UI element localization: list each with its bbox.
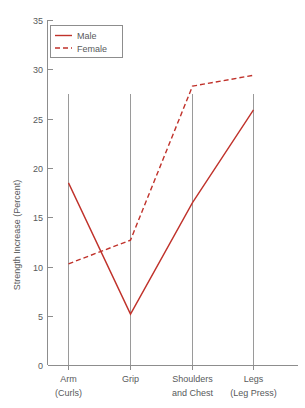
y-tick-label-30: 30 bbox=[33, 65, 43, 75]
x-axis-ticks bbox=[69, 366, 254, 371]
y-tick-label-25: 25 bbox=[33, 115, 43, 125]
legend-label-male: Male bbox=[77, 31, 97, 41]
y-tick-label-10: 10 bbox=[33, 263, 43, 273]
chart-container: 35 30 25 20 15 10 5 0 Strength Increase … bbox=[0, 0, 305, 408]
x-axis-category-labels: Arm (Curls) Grip Shoulders and Chest Leg… bbox=[55, 374, 277, 398]
cat-label-shoulders-and-chest-line2: and Chest bbox=[172, 388, 214, 398]
legend: Male Female bbox=[51, 26, 123, 58]
y-axis-tick-labels: 35 30 25 20 15 10 5 0 bbox=[33, 16, 43, 371]
y-axis-ticks bbox=[48, 21, 53, 366]
data-series-layer bbox=[69, 75, 254, 314]
cat-label-legs-leg-press-line2: (Leg Press) bbox=[230, 388, 277, 398]
y-tick-label-0: 0 bbox=[38, 361, 43, 371]
cat-label-arm-curls-line2: (Curls) bbox=[55, 388, 82, 398]
series-line-male bbox=[69, 110, 254, 314]
cat-label-shoulders-and-chest-line1: Shoulders bbox=[172, 374, 213, 384]
cat-label-grip-line1: Grip bbox=[122, 374, 139, 384]
y-tick-label-5: 5 bbox=[38, 312, 43, 322]
y-tick-label-20: 20 bbox=[33, 164, 43, 174]
category-gridlines bbox=[69, 94, 254, 365]
y-tick-label-35: 35 bbox=[33, 16, 43, 26]
cat-label-legs-leg-press-line1: Legs bbox=[244, 374, 264, 384]
series-line-female bbox=[69, 75, 254, 264]
y-tick-label-15: 15 bbox=[33, 213, 43, 223]
line-chart: 35 30 25 20 15 10 5 0 Strength Increase … bbox=[0, 0, 305, 408]
legend-label-female: Female bbox=[77, 44, 107, 54]
cat-label-arm-curls-line1: Arm bbox=[60, 374, 77, 384]
y-axis-title: Strength Increase (Percent) bbox=[12, 180, 22, 291]
